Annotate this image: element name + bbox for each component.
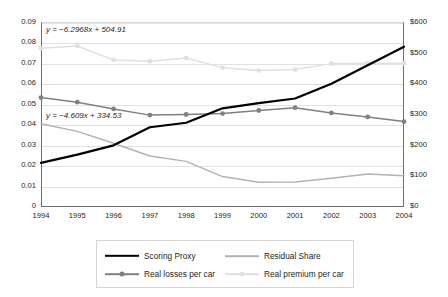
legend-swatch-icon	[225, 250, 259, 262]
y-axis-right-tick: $300	[410, 110, 446, 118]
legend-label: Scoring Proxy	[144, 251, 196, 261]
x-axis-tick: 1999	[203, 211, 243, 220]
x-axis-tick: 2004	[384, 211, 424, 220]
legend-item-real-losses-per-car[interactable]: Real losses per car	[105, 268, 225, 280]
y-axis-left-tick: 0.02	[2, 161, 36, 169]
gridline	[42, 23, 403, 24]
legend-row: Scoring Proxy Residual Share	[105, 247, 345, 265]
chart-container: 0.09 0.08 0.07 0.06 0.05 0.04 0.03 0.02 …	[0, 0, 448, 297]
chart-legend: Scoring Proxy Residual Share Real losses…	[96, 240, 354, 288]
y-axis-right-tick: $500	[410, 49, 446, 57]
gridline	[42, 43, 403, 44]
x-axis-tick: 2000	[239, 211, 279, 220]
legend-line-icon	[225, 255, 259, 257]
legend-marker-icon	[120, 272, 125, 277]
y-axis-left-tick: 0.01	[2, 182, 36, 190]
legend-swatch-icon	[105, 250, 139, 262]
gridline	[42, 64, 403, 65]
y-axis-right-tick: $100	[410, 171, 446, 179]
x-axis-tick: 1998	[166, 211, 206, 220]
y-axis-left-tick: 0.09	[2, 18, 36, 26]
y-axis-right-tick: $600	[410, 18, 446, 26]
x-axis-tick: 2002	[311, 211, 351, 220]
gridline	[42, 166, 403, 167]
legend-row: Real losses per car Real premium per car	[105, 265, 345, 283]
y-axis-right-tick: $0	[410, 202, 446, 210]
gridline	[42, 146, 403, 147]
x-axis-tick: 2001	[275, 211, 315, 220]
gridline	[42, 105, 403, 106]
legend-label: Real premium per car	[264, 269, 344, 279]
y-axis-left-tick: 0	[2, 202, 36, 210]
y-axis-left-tick: 0.04	[2, 120, 36, 128]
legend-swatch-icon	[105, 268, 139, 280]
legend-label: Residual Share	[264, 251, 321, 261]
legend-item-scoring-proxy[interactable]: Scoring Proxy	[105, 250, 225, 262]
gridline	[42, 187, 403, 188]
legend-item-real-premium-per-car[interactable]: Real premium per car	[225, 268, 345, 280]
trendline-equation-losses: y = −4.609x + 334.53	[46, 111, 121, 120]
legend-item-residual-share[interactable]: Residual Share	[225, 250, 345, 262]
x-axis-tick: 1995	[57, 211, 97, 220]
legend-line-icon	[105, 255, 139, 257]
legend-label: Real losses per car	[144, 269, 215, 279]
trendline-equation-premium: y = −6.2968x + 504.91	[46, 25, 126, 34]
gridline	[42, 125, 403, 126]
x-axis-tick: 1997	[130, 211, 170, 220]
legend-swatch-icon	[225, 268, 259, 280]
x-axis-tick: 2003	[348, 211, 388, 220]
y-axis-right-tick: $400	[410, 79, 446, 87]
y-axis-left-tick: 0.05	[2, 100, 36, 108]
y-axis-left-tick: 0.08	[2, 38, 36, 46]
y-axis-left-tick: 0.03	[2, 141, 36, 149]
legend-marker-icon	[240, 272, 245, 277]
x-axis-tick: 1994	[21, 211, 61, 220]
y-axis-left-tick: 0.06	[2, 79, 36, 87]
x-axis-tick: 1996	[94, 211, 134, 220]
y-axis-right-tick: $200	[410, 141, 446, 149]
gridline	[42, 84, 403, 85]
y-axis-left-tick: 0.07	[2, 59, 36, 67]
